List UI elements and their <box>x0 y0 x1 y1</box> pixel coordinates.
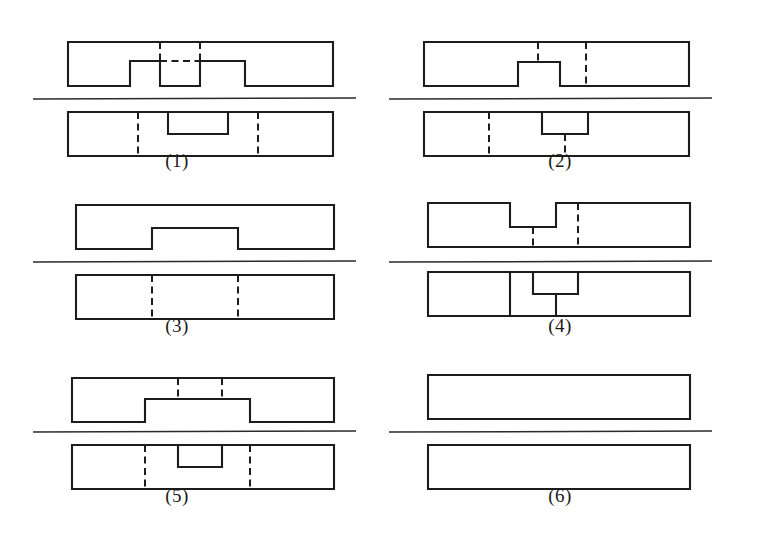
figure-1-label: (1) <box>147 150 207 172</box>
figure-6-top-view-outline <box>428 445 690 489</box>
figure-3 <box>33 205 356 319</box>
figure-3-front-view-outline <box>76 205 334 249</box>
engineering-drawing-canvas <box>0 0 763 554</box>
figure-5-front-view-outline <box>72 378 334 422</box>
figure-2-top-view-notch <box>542 112 588 134</box>
figure-5-top-view-notch <box>178 445 222 467</box>
figure-3-label: (3) <box>147 315 207 337</box>
figure-2-label: (2) <box>530 150 590 172</box>
figure-5-label: (5) <box>147 485 207 507</box>
figure-6 <box>389 375 712 489</box>
figure-6-front-view-outline <box>428 375 690 419</box>
drawing-sheet: (1) (2) (3) (4) (5) (6) <box>0 0 763 554</box>
figure-1-separator-line <box>33 98 356 99</box>
figure-2-front-view-outline <box>424 42 689 86</box>
figure-5-separator-line <box>33 431 356 432</box>
figure-4-separator-line <box>389 261 712 262</box>
figure-2 <box>389 42 712 156</box>
figure-1 <box>33 42 356 156</box>
figure-2-separator-line <box>389 98 712 99</box>
figure-1-top-view-notch <box>168 112 228 134</box>
figure-4-top-view-notch <box>533 272 578 294</box>
figure-4 <box>389 203 712 316</box>
figure-3-separator-line <box>33 261 356 262</box>
figure-6-separator-line <box>389 431 712 432</box>
figure-6-label: (6) <box>530 485 590 507</box>
figure-4-label: (4) <box>530 315 590 337</box>
figure-4-front-view-outline <box>428 203 690 247</box>
figure-3-top-view-outline <box>76 275 334 319</box>
figure-5 <box>33 378 356 489</box>
